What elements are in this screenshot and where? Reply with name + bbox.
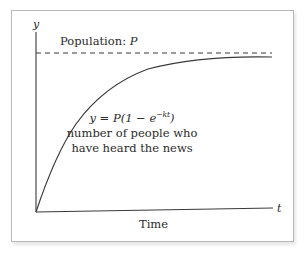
x-axis-title: Time — [0, 219, 307, 231]
y-axis-label: y — [33, 19, 39, 30]
equation-exponent: −kt — [156, 110, 170, 119]
curve-description-line-2: have heard the news — [57, 141, 207, 155]
asymptote-label-variable: P — [130, 34, 138, 48]
asymptote-label: Population: P — [60, 36, 137, 48]
equation-rhs-open: P(1 − e — [113, 111, 156, 125]
x-axis-line — [36, 208, 273, 212]
equation-equals: = — [96, 111, 113, 125]
curve-annotation: y = P(1 − e−kt) number of people who hav… — [57, 112, 207, 155]
asymptote-label-prefix: Population: — [60, 34, 130, 48]
equation-rhs-close: ) — [170, 111, 175, 125]
curve-description-line-1: number of people who — [57, 126, 207, 140]
x-axis-label: t — [277, 203, 281, 214]
curve-equation: y = P(1 − e−kt) — [57, 112, 207, 125]
figure-root: y t Time Population: P y = P(1 − e−kt) n… — [0, 0, 307, 259]
